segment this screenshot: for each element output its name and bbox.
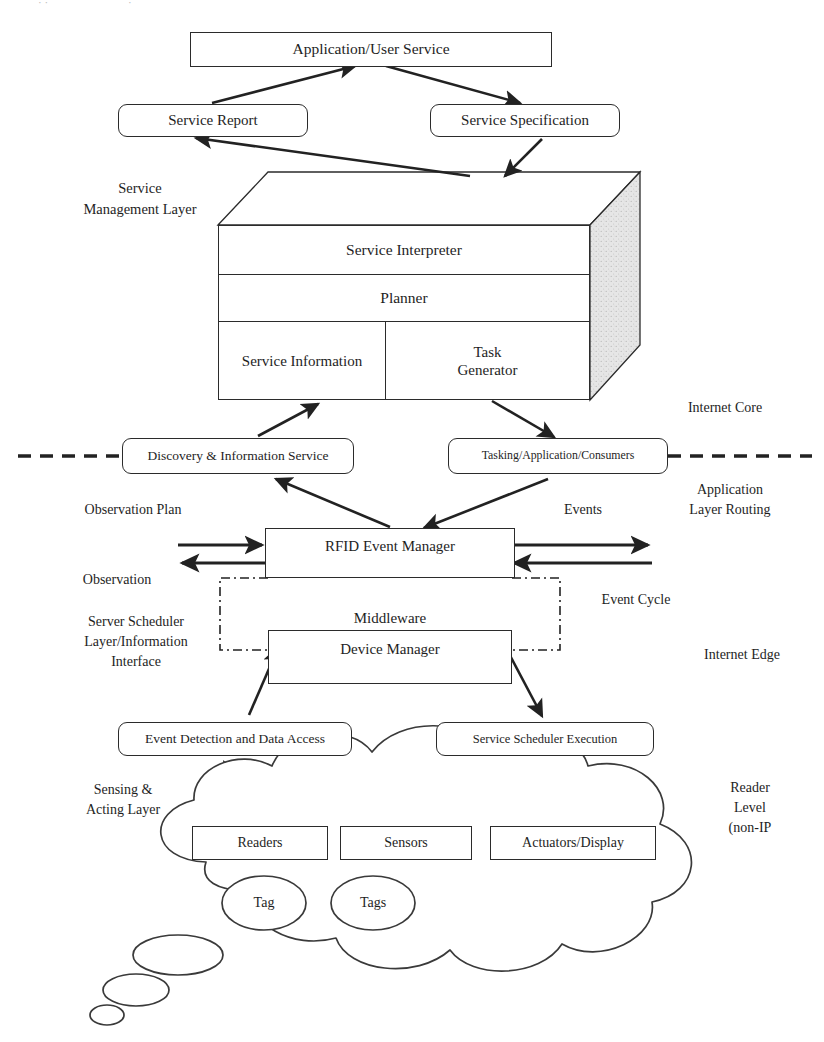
node-readers[interactable]: Readers: [192, 826, 328, 860]
sensing-cloud: [90, 726, 691, 1025]
connector-layer: [0, 0, 824, 1042]
node-service-interpreter[interactable]: Service Interpreter: [218, 225, 590, 275]
scan-artifact: · ·: [38, 0, 48, 8]
label-observation: Observation: [42, 570, 192, 590]
label-middleware: Middleware: [300, 608, 480, 630]
node-sensors[interactable]: Sensors: [340, 826, 472, 860]
node-service-information[interactable]: Service Information: [218, 321, 386, 400]
label-internet-edge: Internet Edge: [672, 645, 812, 665]
label-tags: Tags: [333, 891, 413, 915]
node-device-manager[interactable]: Device Manager: [268, 630, 512, 684]
node-rfid-event-manager[interactable]: RFID Event Manager: [265, 528, 515, 578]
node-service-report[interactable]: Service Report: [118, 104, 308, 137]
node-application-user-service[interactable]: Application/User Service: [190, 32, 552, 67]
node-event-detection-and-data-access[interactable]: Event Detection and Data Access: [118, 722, 352, 756]
node-planner[interactable]: Planner: [218, 274, 590, 322]
node-discovery-information-service[interactable]: Discovery & Information Service: [122, 438, 354, 474]
architecture-diagram: · · ·: [0, 0, 824, 1042]
label-tag: Tag: [224, 891, 304, 915]
label-event-cycle: Event Cycle: [566, 590, 706, 610]
scan-artifact-2: ·: [128, 0, 132, 8]
label-internet-core: Internet Core: [650, 398, 800, 418]
label-sensing-acting-layer: Sensing & Acting Layer: [48, 780, 198, 820]
node-actuators-display[interactable]: Actuators/Display: [490, 826, 656, 860]
node-tasking-application-consumers[interactable]: Tasking/Application/Consumers: [448, 438, 668, 474]
label-reader-level: Reader Level (non-IP: [690, 778, 810, 838]
label-server-scheduler-layer: Server Scheduler Layer/Information Inter…: [46, 612, 226, 672]
node-task-generator[interactable]: Task Generator: [385, 321, 590, 400]
label-application-layer-routing: Application Layer Routing: [655, 480, 805, 520]
node-service-specification[interactable]: Service Specification: [430, 104, 620, 137]
label-events: Events: [528, 500, 638, 520]
label-service-management-layer: Service Management Layer: [60, 178, 220, 219]
node-service-scheduler-execution[interactable]: Service Scheduler Execution: [436, 722, 654, 756]
label-observation-plan: Observation Plan: [48, 500, 218, 520]
